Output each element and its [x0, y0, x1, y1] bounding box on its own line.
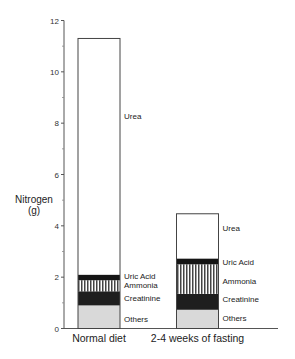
segment-label-others: Others — [124, 315, 148, 324]
category-label: Normal diet — [72, 332, 126, 344]
y-tick-label: 10 — [50, 68, 59, 77]
bar-segment-creatinine — [177, 294, 219, 310]
y-axis-unit: (g) — [28, 205, 40, 216]
segment-label-urea: Urea — [124, 112, 142, 121]
bar-segment-uric-acid — [78, 275, 120, 281]
segment-label-creatinine: Creatinine — [124, 294, 161, 303]
bar-segment-urea — [78, 38, 120, 274]
bar-segment-ammonia — [78, 280, 120, 291]
y-axis-label: Nitrogen — [15, 194, 53, 205]
bar-segment-ammonia — [177, 264, 219, 294]
y-tick-label: 2 — [55, 273, 60, 282]
category-label: 2-4 weeks of fasting — [151, 332, 245, 344]
bar-segment-uric-acid — [177, 258, 219, 264]
segment-label-creatinine: Creatinine — [223, 295, 260, 304]
y-tick-label: 4 — [55, 222, 60, 231]
segment-label-others: Others — [223, 314, 247, 323]
y-tick-label: 6 — [55, 171, 60, 180]
y-tick-label: 12 — [50, 17, 59, 26]
bar-segment-creatinine — [78, 291, 120, 305]
nitrogen-excretion-chart: 024681012 OthersCreatinineAmmoniaUric Ac… — [0, 0, 295, 359]
bar-segment-urea — [177, 214, 219, 259]
segment-label-urea: Urea — [223, 224, 241, 233]
y-tick-label: 8 — [55, 119, 60, 128]
bar-segment-others — [177, 310, 219, 329]
segment-label-ammonia: Ammonia — [223, 277, 257, 286]
segment-label-uric-acid: Uric Acid — [223, 258, 255, 267]
bar-segment-others — [78, 305, 120, 328]
segment-label-ammonia: Ammonia — [124, 281, 158, 290]
segment-label-uric-acid: Uric Acid — [124, 272, 156, 281]
y-tick-label: 0 — [55, 325, 60, 334]
